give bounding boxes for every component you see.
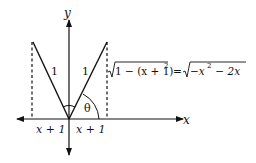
right-base-label: x + 1: [76, 123, 105, 136]
x-axis-label: x: [183, 113, 190, 127]
height-equation: 1 − (x + 1) 2 = −x 2 − 2x: [108, 62, 246, 77]
equals-sign: =: [173, 65, 182, 77]
right-segment-label: 1: [82, 65, 89, 78]
left-unit-segment: [33, 42, 69, 119]
left-base-label: x + 1: [36, 123, 65, 136]
diagram-canvas: y x 1 1 θ x + 1 x + 1 1 − (x + 1) 2 = −x…: [0, 0, 256, 163]
rhs-radicand-a: −x: [190, 65, 205, 77]
y-axis-label: y: [63, 6, 71, 20]
lhs-exponent: 2: [164, 62, 168, 70]
rhs-radicand-b: − 2x: [212, 65, 240, 77]
theta-label: θ: [84, 102, 91, 115]
left-segment-label: 1: [51, 65, 58, 78]
rhs-exponent: 2: [207, 62, 211, 70]
geometry-diagram: y x 1 1 θ x + 1 x + 1 1 − (x + 1) 2 = −x…: [0, 0, 256, 163]
